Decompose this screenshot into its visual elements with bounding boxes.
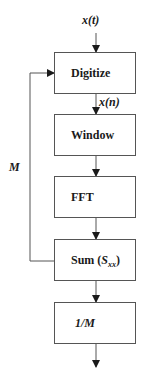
window-block: Window xyxy=(54,114,136,156)
sum-label: Sum (Sxx) xyxy=(71,253,120,269)
fft-label: FFT xyxy=(71,190,94,205)
window-label: Window xyxy=(71,128,114,143)
feedback-count-label: M xyxy=(9,160,20,175)
sum-block: Sum (Sxx) xyxy=(54,239,136,281)
feedback-loop-arrow xyxy=(30,73,54,261)
sampled-signal-label: x(n) xyxy=(99,95,120,110)
scale-block: 1/M xyxy=(54,302,136,344)
fft-block: FFT xyxy=(54,176,136,218)
input-signal-label: x(t) xyxy=(82,13,99,28)
digitize-block: Digitize xyxy=(54,52,136,94)
scale-label: 1/M xyxy=(75,316,95,331)
digitize-label: Digitize xyxy=(71,66,110,81)
